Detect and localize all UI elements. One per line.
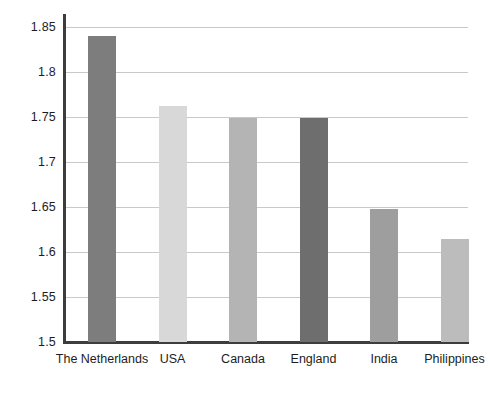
x-axis-tick-label: USA	[160, 352, 186, 367]
bars-group	[66, 14, 468, 342]
bar	[88, 36, 116, 342]
x-axis-tick-label: India	[370, 352, 397, 367]
y-axis-tick-label: 1.8	[10, 66, 56, 79]
bar	[300, 118, 328, 342]
bar	[370, 209, 398, 342]
x-axis-tick-label: Canada	[221, 352, 265, 367]
x-axis-tick-label: England	[291, 352, 337, 367]
y-axis-tick-label: 1.5	[10, 336, 56, 349]
bar-chart: 1.51.551.61.651.71.751.81.85 The Netherl…	[0, 0, 491, 393]
y-axis-tick-labels: 1.51.551.61.651.71.751.81.85	[8, 0, 56, 393]
x-axis-tick-label: Philippines	[424, 352, 484, 367]
y-axis-tick-label: 1.65	[10, 201, 56, 214]
x-axis-tick-labels: The NetherlandsUSACanadaEnglandIndiaPhil…	[66, 352, 471, 376]
y-axis-tick-label: 1.7	[10, 156, 56, 169]
bar	[229, 118, 257, 342]
x-axis-tick-label: The Netherlands	[56, 352, 148, 367]
y-axis-tick-label: 1.55	[10, 291, 56, 304]
bar	[441, 239, 469, 343]
bar	[159, 106, 187, 342]
y-axis-tick-label: 1.85	[10, 21, 56, 34]
y-axis-tick-label: 1.75	[10, 111, 56, 124]
y-axis-tick-label: 1.6	[10, 246, 56, 259]
